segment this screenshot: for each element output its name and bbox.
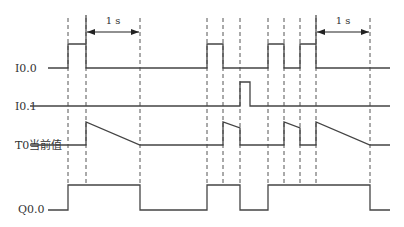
duration-label: 1 s <box>336 15 351 26</box>
duration-label: 1 s <box>106 15 121 26</box>
waveform-i0-0 <box>48 44 390 68</box>
label-q0-0: Q0.0 <box>18 203 45 216</box>
waveform-t0 <box>30 122 390 145</box>
waveform-i0-1 <box>30 82 390 106</box>
label-i0-0: I0.0 <box>15 62 37 75</box>
waveform-q0-0 <box>48 185 390 210</box>
dimension-annotations: 1 s1 s <box>86 15 369 44</box>
dashed-guide-lines <box>68 18 370 186</box>
timing-diagram: 1 s1 s I0.0 I0.1 T0当前值 Q0.0 <box>0 0 404 227</box>
